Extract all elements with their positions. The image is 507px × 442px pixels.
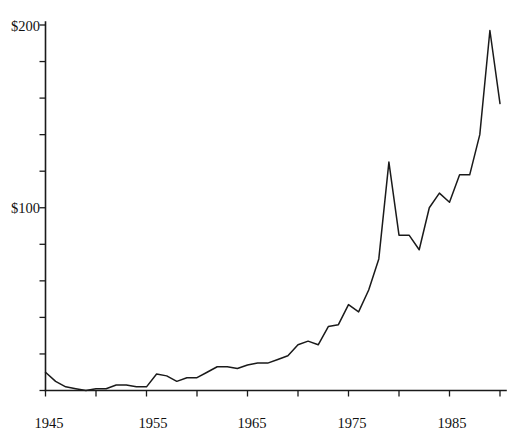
axes-group bbox=[46, 22, 507, 391]
y-tick-label-100: $100 bbox=[11, 200, 40, 216]
x-tick-label-1945: 1945 bbox=[35, 415, 64, 431]
price-series-line bbox=[46, 30, 501, 390]
chart-canvas: $200 $100 1945 1955 1965 1975 1985 bbox=[0, 0, 507, 442]
x-tick-label-1955: 1955 bbox=[139, 415, 168, 431]
y-axis-tick-labels: $200 $100 bbox=[11, 18, 40, 216]
line-chart: $200 $100 1945 1955 1965 1975 1985 bbox=[0, 0, 507, 442]
y-tick-label-200: $200 bbox=[11, 18, 40, 34]
y-axis-ticks bbox=[40, 25, 46, 391]
x-axis-tick-labels: 1945 1955 1965 1975 1985 bbox=[35, 415, 467, 431]
x-tick-label-1975: 1975 bbox=[338, 415, 367, 431]
x-tick-label-1965: 1965 bbox=[238, 415, 267, 431]
x-tick-label-1985: 1985 bbox=[438, 415, 467, 431]
x-axis-ticks bbox=[46, 391, 501, 397]
series-group bbox=[46, 30, 501, 390]
